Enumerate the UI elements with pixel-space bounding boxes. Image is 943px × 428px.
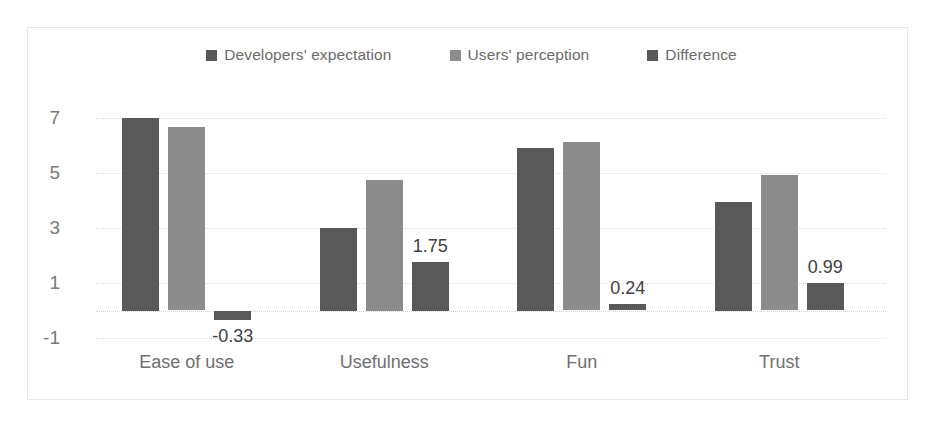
bar-group-0: -0.33	[122, 118, 251, 338]
x-tick-label-0: Ease of use	[139, 352, 234, 373]
x-tick-label-1: Usefulness	[340, 352, 429, 373]
bar-1-2[interactable]	[412, 262, 449, 310]
data-label-0-2: -0.33	[212, 326, 253, 347]
x-tick-label-2: Fun	[566, 352, 597, 373]
data-label-2-2: 0.24	[610, 278, 645, 299]
bar-2-1[interactable]	[563, 142, 600, 311]
data-label-1-2: 1.75	[413, 236, 448, 257]
bars-layer: -0.331.750.240.99	[96, 118, 886, 338]
bar-1-1[interactable]	[366, 180, 403, 311]
x-axis: Ease of useUsefulnessFunTrust	[96, 352, 886, 380]
data-label-3-2: 0.99	[808, 257, 843, 278]
bar-3-0[interactable]	[715, 202, 752, 311]
bar-group-1: 1.75	[320, 118, 449, 338]
bar-0-1[interactable]	[168, 127, 205, 310]
bar-3-1[interactable]	[761, 175, 798, 311]
bar-group-2: 0.24	[517, 118, 646, 338]
x-tick-label-3: Trust	[759, 352, 799, 373]
bar-group-3: 0.99	[715, 118, 844, 338]
bar-1-0[interactable]	[320, 228, 357, 311]
bar-3-2[interactable]	[807, 283, 844, 310]
bar-0-0[interactable]	[122, 118, 159, 311]
bar-0-2[interactable]	[214, 311, 251, 320]
bar-2-0[interactable]	[517, 148, 554, 310]
bar-2-2[interactable]	[609, 304, 646, 311]
